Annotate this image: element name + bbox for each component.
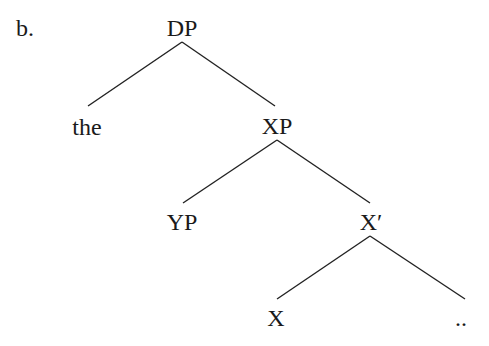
tree-nodes: DP the XP YP X′ X .. <box>72 15 467 331</box>
node-dp: DP <box>167 15 198 41</box>
edge-xp-xbar <box>277 140 370 203</box>
edge-xbar-x <box>277 236 370 299</box>
edge-dp-the <box>88 42 182 106</box>
node-yp: YP <box>167 209 198 235</box>
example-label: b. <box>16 15 34 41</box>
edge-xp-yp <box>183 140 277 203</box>
node-ellipsis: .. <box>455 305 467 331</box>
node-xp: XP <box>262 113 293 139</box>
node-x: X <box>267 305 284 331</box>
node-xbar: X′ <box>360 209 383 235</box>
syntax-tree-diagram: b. DP the XP YP X′ X .. <box>0 0 489 346</box>
edge-xbar-ellipsis <box>370 236 465 299</box>
node-the: the <box>72 114 101 140</box>
tree-edges <box>88 42 465 299</box>
edge-dp-xp <box>182 42 275 106</box>
